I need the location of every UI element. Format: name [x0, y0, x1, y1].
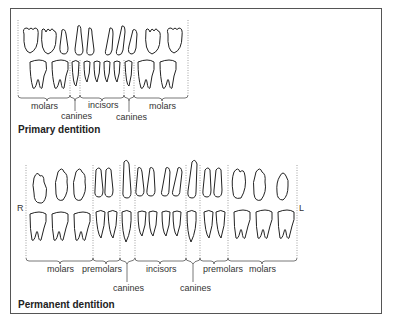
permanent-label-canines-right: canines: [180, 283, 211, 293]
primary-lower-teeth: [30, 60, 176, 88]
dentition-diagram: [0, 0, 395, 330]
primary-title: Primary dentition: [18, 124, 100, 135]
permanent-upper-teeth: [33, 160, 288, 203]
permanent-label-incisors: incisors: [146, 264, 177, 274]
primary-label-molars-left: molars: [31, 101, 58, 111]
permanent-side-left: L: [299, 203, 304, 213]
primary-upper-teeth: [23, 26, 182, 55]
permanent-label-premolars-right: premolars: [203, 264, 243, 274]
primary-label-incisors: incisors: [88, 100, 119, 110]
primary-guides: [18, 20, 188, 95]
primary-label-molars-right: molars: [149, 101, 176, 111]
permanent-side-right: R: [17, 203, 24, 213]
permanent-label-molars-left: molars: [47, 264, 74, 274]
primary-label-canines-right: canines: [116, 112, 147, 122]
permanent-label-premolars-left: premolars: [82, 264, 122, 274]
permanent-title: Permanent dentition: [18, 299, 115, 310]
permanent-lower-teeth: [30, 210, 294, 242]
permanent-label-canines-left: canines: [113, 283, 144, 293]
permanent-label-molars-right: molars: [249, 264, 276, 274]
primary-label-canines-left: canines: [61, 111, 92, 121]
